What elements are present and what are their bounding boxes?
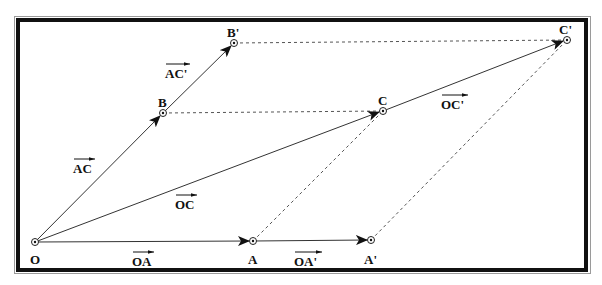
svg-text:OC: OC xyxy=(175,197,195,212)
point-O xyxy=(32,239,39,246)
label-B: B xyxy=(158,95,167,110)
point-C-prime xyxy=(564,37,571,44)
dashed-B2-C2 xyxy=(234,40,567,43)
vector-label-OA-prime: OA' xyxy=(294,252,322,269)
label-C-prime: C' xyxy=(559,22,572,37)
svg-text:OA': OA' xyxy=(294,254,317,269)
label-B-prime: B' xyxy=(227,25,239,40)
svg-text:AC': AC' xyxy=(165,66,187,81)
vector-label-OA: OA xyxy=(132,252,154,269)
label-C: C xyxy=(378,93,387,108)
label-O: O xyxy=(30,252,40,267)
svg-text:OC': OC' xyxy=(441,97,464,112)
vector-diagram: O A A' B B' C C' OA OA' AC AC' OC OC' xyxy=(0,0,602,285)
point-B-prime xyxy=(231,40,238,47)
vector-AA2 xyxy=(253,240,367,241)
point-A-prime xyxy=(368,237,375,244)
vector-OC xyxy=(35,112,379,242)
dashed-A2-C2 xyxy=(371,40,567,240)
vector-OA xyxy=(35,241,249,242)
vector-label-OC-prime: OC' xyxy=(441,95,468,112)
vector-OB xyxy=(35,116,160,242)
vector-CC2 xyxy=(383,41,563,111)
frame-inner-border xyxy=(18,20,586,270)
vector-label-AC-prime: AC' xyxy=(165,64,190,81)
point-A xyxy=(250,238,257,245)
vector-label-AC: AC xyxy=(73,159,95,176)
dashed-B-C xyxy=(163,111,383,113)
dashed-A-C xyxy=(253,111,383,241)
vector-label-OC: OC xyxy=(175,195,197,212)
point-C xyxy=(380,108,387,115)
label-A: A xyxy=(248,252,258,267)
point-B xyxy=(160,110,167,117)
label-A-prime: A' xyxy=(364,252,377,267)
svg-text:AC: AC xyxy=(73,161,92,176)
svg-text:OA: OA xyxy=(132,254,152,269)
frame-outer-border xyxy=(15,17,591,274)
